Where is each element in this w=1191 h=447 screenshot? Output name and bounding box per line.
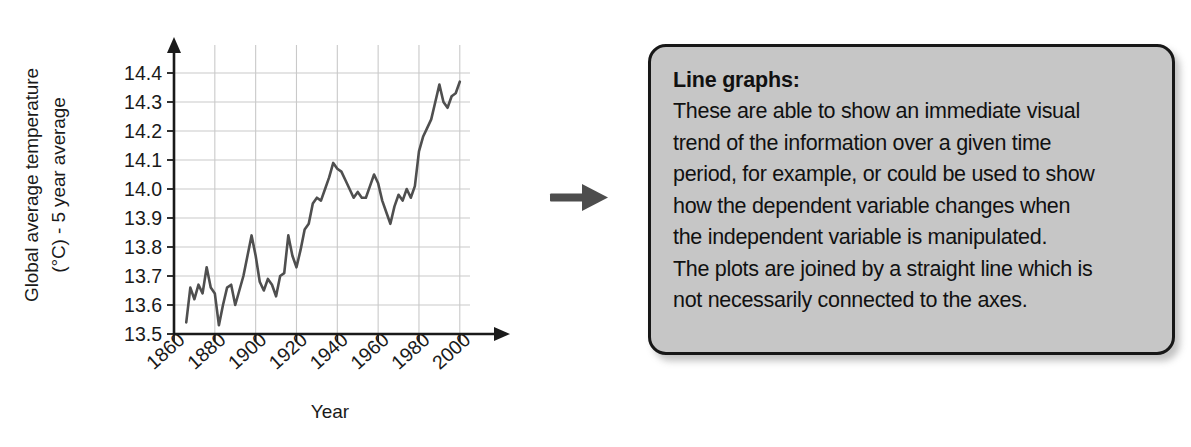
right-arrow-icon xyxy=(548,178,618,218)
x-axis-title: Year xyxy=(230,401,430,423)
y-tick-labels: 13.513.613.713.813.914.014.114.214.314.4 xyxy=(124,62,162,345)
chart-gridlines xyxy=(174,45,470,334)
callout-line: how the dependent variable changes when xyxy=(673,191,1152,223)
y-tick-label: 14.0 xyxy=(124,178,162,200)
y-tick-label: 13.9 xyxy=(124,207,162,229)
y-tick-label: 14.3 xyxy=(124,91,162,113)
y-tick-label: 13.5 xyxy=(124,323,162,345)
line-graphs-callout-box: Line graphs: These are able to show an i… xyxy=(648,44,1175,355)
callout-line: the independent variable is manipulated. xyxy=(673,222,1152,254)
y-axis-arrowhead xyxy=(167,37,181,53)
chart-plot-area: 13.513.613.713.813.914.014.114.214.314.4… xyxy=(0,0,600,447)
y-tick-label: 13.8 xyxy=(124,236,162,258)
y-tick-label: 14.4 xyxy=(124,62,162,84)
callout-title: Line graphs: xyxy=(673,65,1152,95)
y-tick-label: 14.2 xyxy=(124,120,162,142)
callout-body: These are able to show an immediate visu… xyxy=(673,96,1152,317)
callout-line: period, for example, or could be used to… xyxy=(673,159,1152,191)
y-tick-label: 13.7 xyxy=(124,265,162,287)
callout-line: These are able to show an immediate visu… xyxy=(673,96,1152,128)
callout-line: trend of the information over a given ti… xyxy=(673,128,1152,160)
callout-line: not necessarily connected to the axes. xyxy=(673,285,1152,317)
y-tick-label: 13.6 xyxy=(124,294,162,316)
x-axis-arrowhead xyxy=(494,327,510,341)
y-tick-label: 14.1 xyxy=(124,149,162,171)
callout-line: The plots are joined by a straight line … xyxy=(673,254,1152,286)
line-chart-figure: Global average temperature (°C) - 5 year… xyxy=(0,0,600,447)
